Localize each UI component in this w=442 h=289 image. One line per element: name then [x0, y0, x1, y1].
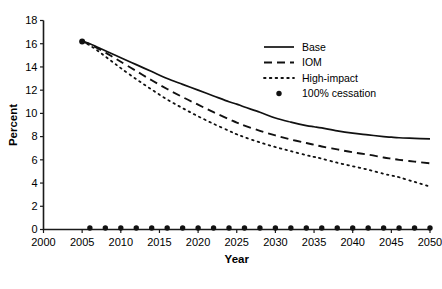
cessation-marker-dot	[103, 225, 108, 230]
x-tick-label: 2000	[31, 236, 55, 248]
y-tick-label: 8	[31, 130, 37, 142]
cessation-marker-dot	[350, 225, 355, 230]
cessation-marker-dot	[134, 225, 139, 230]
y-tick-label: 14	[25, 61, 37, 73]
x-axis-title: Year	[225, 253, 250, 265]
x-tick-label: 2015	[147, 236, 171, 248]
series-start-marker	[79, 38, 85, 44]
y-tick-label: 6	[31, 154, 37, 166]
x-tick-label: 2040	[340, 236, 364, 248]
cessation-marker-dot	[226, 225, 231, 230]
axis-lines	[44, 21, 431, 230]
y-axis-title: Percent	[7, 104, 19, 146]
cessation-marker-dot	[118, 225, 123, 230]
y-tick-label: 18	[25, 14, 37, 26]
y-tick-label: 10	[25, 107, 37, 119]
series-line-iom	[82, 41, 430, 163]
cessation-marker-dot	[180, 225, 185, 230]
x-tick-label: 2045	[379, 236, 403, 248]
cessation-marker-dot	[304, 225, 309, 230]
cessation-marker-dot	[257, 225, 262, 230]
y-tick-label: 0	[31, 223, 37, 235]
cessation-marker-dot	[242, 225, 247, 230]
chart-figure: 0246810121416182000200520102015202020252…	[0, 0, 442, 289]
y-tick-label: 12	[25, 84, 37, 96]
x-tick-label: 2020	[186, 236, 210, 248]
cessation-marker-dot	[365, 225, 370, 230]
cessation-marker-dot	[195, 225, 200, 230]
legend-label-base: Base	[302, 41, 326, 53]
cessation-marker-dot	[381, 225, 386, 230]
cessation-marker-dot	[273, 225, 278, 230]
y-tick-label: 16	[25, 38, 37, 50]
cessation-marker-dot	[335, 225, 340, 230]
y-tick-label: 2	[31, 200, 37, 212]
x-tick-label: 2030	[263, 236, 287, 248]
cessation-marker-dot	[211, 225, 216, 230]
x-tick-label: 2035	[302, 236, 326, 248]
x-tick-label: 2005	[70, 236, 94, 248]
cessation-marker-dot	[412, 225, 417, 230]
chart-plot-area: 0246810121416182000200520102015202020252…	[0, 0, 442, 289]
legend-label-high-impact: High-impact	[302, 72, 358, 84]
x-tick-label: 2010	[109, 236, 133, 248]
cessation-marker-dot	[164, 225, 169, 230]
legend-label-iom: IOM	[302, 56, 322, 68]
legend-marker-dot	[276, 91, 281, 96]
x-tick-label: 2050	[418, 236, 442, 248]
cessation-marker-dot	[396, 225, 401, 230]
cessation-marker-dot	[288, 225, 293, 230]
y-tick-label: 4	[31, 177, 37, 189]
cessation-marker-dot	[149, 225, 154, 230]
cessation-marker-dot	[427, 225, 432, 230]
x-tick-label: 2025	[225, 236, 249, 248]
cessation-marker-dot	[319, 225, 324, 230]
cessation-marker-dot	[87, 225, 92, 230]
legend-label-100-cessation: 100% cessation	[302, 87, 376, 99]
series-line-base	[82, 41, 430, 139]
